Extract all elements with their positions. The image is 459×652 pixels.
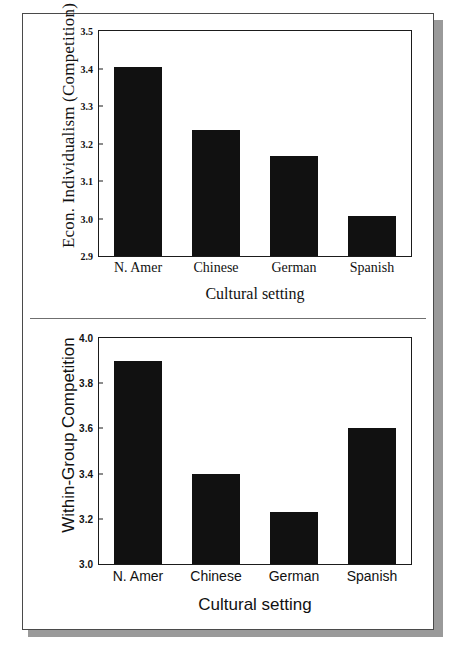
x-tick-label-bottom-0: N. Amer bbox=[113, 568, 164, 584]
x-axis-label-top: Cultural setting bbox=[98, 285, 412, 303]
bar-top-n-amer bbox=[114, 67, 162, 256]
x-axis-label-bottom: Cultural setting bbox=[98, 595, 412, 615]
y-tick-mark-top-4 bbox=[99, 106, 103, 107]
y-tick-mark-top-5 bbox=[99, 68, 103, 69]
y-tick-label-top-0: 2.9 bbox=[81, 251, 100, 262]
y-tick-label-top-6: 3.5 bbox=[81, 26, 100, 37]
y-tick-label-top-4: 3.3 bbox=[81, 101, 100, 112]
bar-bottom-n-amer bbox=[114, 361, 162, 564]
x-tick-label-top-2: German bbox=[271, 260, 316, 276]
y-tick-mark-top-1 bbox=[99, 218, 103, 219]
y-axis-label-top: Econ. Individualism (Competition) bbox=[59, 18, 79, 248]
y-tick-mark-bottom-1 bbox=[99, 518, 103, 519]
panel-divider bbox=[30, 318, 426, 319]
x-tick-label-top-0: N. Amer bbox=[114, 260, 162, 276]
plot-area-top: N. AmerChineseGermanSpanish2.93.03.13.23… bbox=[98, 30, 412, 257]
y-tick-mark-bottom-2 bbox=[99, 473, 103, 474]
bar-top-chinese bbox=[192, 130, 240, 256]
y-tick-label-top-3: 3.2 bbox=[81, 138, 100, 149]
y-tick-label-bottom-3: 3.6 bbox=[79, 423, 99, 434]
y-tick-label-bottom-0: 3.0 bbox=[79, 559, 99, 570]
figure-page: Econ. Individualism (Competition) N. Ame… bbox=[0, 0, 459, 652]
y-tick-label-top-5: 3.4 bbox=[81, 63, 100, 74]
chart-panel-top: Econ. Individualism (Competition) N. Ame… bbox=[22, 13, 434, 318]
plot-area-bottom: N. AmerChineseGermanSpanish3.03.23.43.63… bbox=[98, 337, 412, 565]
y-tick-label-top-1: 3.0 bbox=[81, 213, 100, 224]
x-tick-label-bottom-1: Chinese bbox=[190, 568, 241, 584]
x-tick-label-bottom-3: Spanish bbox=[347, 568, 398, 584]
chart-panel-bottom: Within-Group Competition N. AmerChineseG… bbox=[22, 320, 434, 630]
y-tick-mark-top-3 bbox=[99, 143, 103, 144]
bar-bottom-chinese bbox=[192, 474, 240, 564]
bar-group-top bbox=[99, 31, 411, 256]
x-tick-label-top-1: Chinese bbox=[193, 260, 238, 276]
y-tick-label-bottom-1: 3.2 bbox=[79, 513, 99, 524]
y-axis-label-bottom: Within-Group Competition bbox=[59, 330, 79, 540]
x-tick-label-bottom-2: German bbox=[269, 568, 320, 584]
y-tick-mark-bottom-4 bbox=[99, 383, 103, 384]
bar-group-bottom bbox=[99, 338, 411, 564]
bar-bottom-german bbox=[270, 512, 318, 564]
y-tick-label-bottom-2: 3.4 bbox=[79, 468, 99, 479]
y-tick-mark-bottom-3 bbox=[99, 428, 103, 429]
bar-bottom-spanish bbox=[348, 428, 396, 564]
y-tick-label-top-2: 3.1 bbox=[81, 176, 100, 187]
x-tick-label-top-3: Spanish bbox=[350, 260, 394, 276]
y-tick-label-bottom-5: 4.0 bbox=[79, 333, 99, 344]
y-tick-label-bottom-4: 3.8 bbox=[79, 378, 99, 389]
bar-top-german bbox=[270, 156, 318, 256]
bar-top-spanish bbox=[348, 216, 396, 257]
y-tick-mark-top-2 bbox=[99, 181, 103, 182]
